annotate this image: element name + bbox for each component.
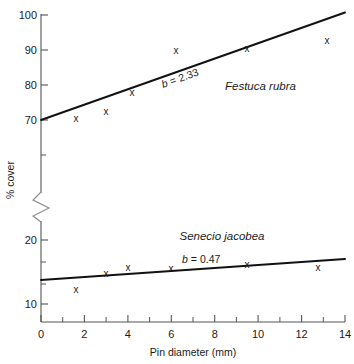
data-point-marker: x bbox=[245, 43, 250, 54]
y-tick-label-100: 100 bbox=[19, 9, 37, 21]
y-ticks-upper bbox=[41, 15, 48, 155]
data-point-marker: x bbox=[104, 106, 109, 117]
axis-break-zigzag bbox=[33, 192, 49, 222]
x-tick-label-0: 0 bbox=[38, 328, 44, 340]
series-festuca-rubra: x x x x x x Festuca rubra b=2.33 bbox=[41, 13, 345, 125]
x-tick-label-10: 10 bbox=[252, 328, 264, 340]
x-axis-title: Pin diameter (mm) bbox=[150, 346, 236, 358]
series-senecio-jacobea: x x x x x x Senecio jacobea b=0.47 bbox=[41, 230, 345, 295]
slope-value-lower: 0.47 bbox=[200, 253, 221, 265]
data-point-marker: x bbox=[245, 259, 250, 270]
data-point-marker: x bbox=[316, 262, 321, 273]
data-point-marker: x bbox=[174, 45, 179, 56]
slope-annotation-lower: b=0.47 bbox=[182, 253, 221, 265]
x-tick-label-4: 4 bbox=[125, 328, 131, 340]
scatter-plot: 100 90 80 70 20 10 0 2 4 bbox=[0, 0, 354, 364]
slope-equals-lower: = bbox=[191, 253, 197, 265]
x-tick-label-14: 14 bbox=[339, 328, 351, 340]
slope-symbol-upper: b bbox=[160, 77, 170, 90]
y-ticks-lower bbox=[41, 240, 48, 304]
y-tick-label-70: 70 bbox=[25, 114, 37, 126]
chart-figure: 100 90 80 70 20 10 0 2 4 bbox=[0, 0, 354, 364]
data-point-marker: x bbox=[74, 284, 79, 295]
slope-symbol-lower: b bbox=[182, 253, 188, 265]
series-label-senecio-jacobea: Senecio jacobea bbox=[179, 230, 264, 242]
series-label-festuca-rubra: Festuca rubra bbox=[225, 80, 296, 92]
y-axis-title: % cover bbox=[4, 161, 16, 199]
svg-text:b=2.33: b=2.33 bbox=[160, 66, 200, 90]
data-point-marker: x bbox=[74, 113, 79, 124]
x-tick-label-6: 6 bbox=[168, 328, 174, 340]
data-point-marker: x bbox=[169, 263, 174, 274]
slope-equals-upper: = bbox=[168, 74, 178, 87]
data-point-marker: x bbox=[130, 87, 135, 98]
y-tick-label-10: 10 bbox=[25, 298, 37, 310]
y-tick-label-90: 90 bbox=[25, 44, 37, 56]
y-tick-label-80: 80 bbox=[25, 79, 37, 91]
axes bbox=[41, 14, 345, 322]
x-tick-label-8: 8 bbox=[212, 328, 218, 340]
slope-annotation-upper: b=2.33 bbox=[160, 66, 200, 90]
y-tick-label-20: 20 bbox=[25, 234, 37, 246]
data-point-marker: x bbox=[126, 262, 131, 273]
x-ticks-minor bbox=[63, 317, 324, 322]
data-point-marker: x bbox=[325, 35, 330, 46]
data-point-marker: x bbox=[104, 268, 109, 279]
slope-value-upper: 2.33 bbox=[177, 66, 200, 84]
x-tick-label-2: 2 bbox=[81, 328, 87, 340]
x-tick-label-12: 12 bbox=[295, 328, 307, 340]
